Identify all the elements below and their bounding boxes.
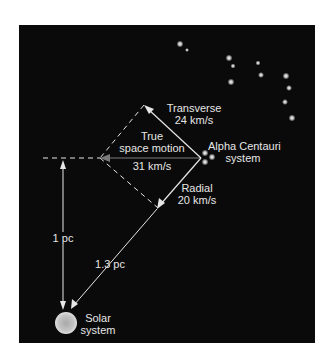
one-pc-label: 1 pc	[48, 232, 78, 244]
solar-text-2: system	[78, 324, 118, 336]
true-motion-text-2: space motion	[112, 142, 192, 154]
alpha-centauri-text-2: system	[208, 152, 278, 164]
alpha-centauri-text-1: Alpha Centauri	[208, 140, 278, 152]
solar-text-1: Solar	[78, 312, 118, 324]
sun-icon	[55, 312, 77, 334]
dashed-construction-lines	[43, 105, 158, 208]
solar-system-label: Solar system	[78, 312, 118, 336]
true-motion-text-1: True	[112, 130, 192, 142]
radial-speed-text: 20 km/s	[172, 194, 222, 206]
transverse-label: Transverse 24 km/s	[164, 102, 224, 126]
space-motion-diagram	[0, 0, 332, 361]
transverse-speed-text: 24 km/s	[164, 114, 224, 126]
one-point-three-pc-label: 1.3 pc	[92, 258, 128, 270]
true-motion-speed-label: 31 km/s	[122, 160, 182, 172]
true-motion-label: True space motion	[112, 130, 192, 154]
transverse-text: Transverse	[164, 102, 224, 114]
alpha-centauri-label: Alpha Centauri system	[208, 140, 278, 164]
radial-label: Radial 20 km/s	[172, 182, 222, 206]
radial-text: Radial	[172, 182, 222, 194]
